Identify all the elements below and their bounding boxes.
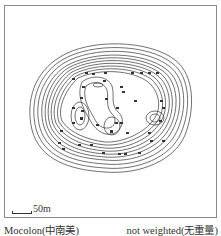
inner-contours [71,77,164,135]
outer-contours [30,44,192,173]
caption-weighting: not weighted(无重量) [126,222,218,236]
caption-site: Mocolon(中南美) [4,222,79,236]
scale-bar [12,211,32,214]
scale-label: 50m [33,203,51,214]
contour-map [0,0,221,236]
